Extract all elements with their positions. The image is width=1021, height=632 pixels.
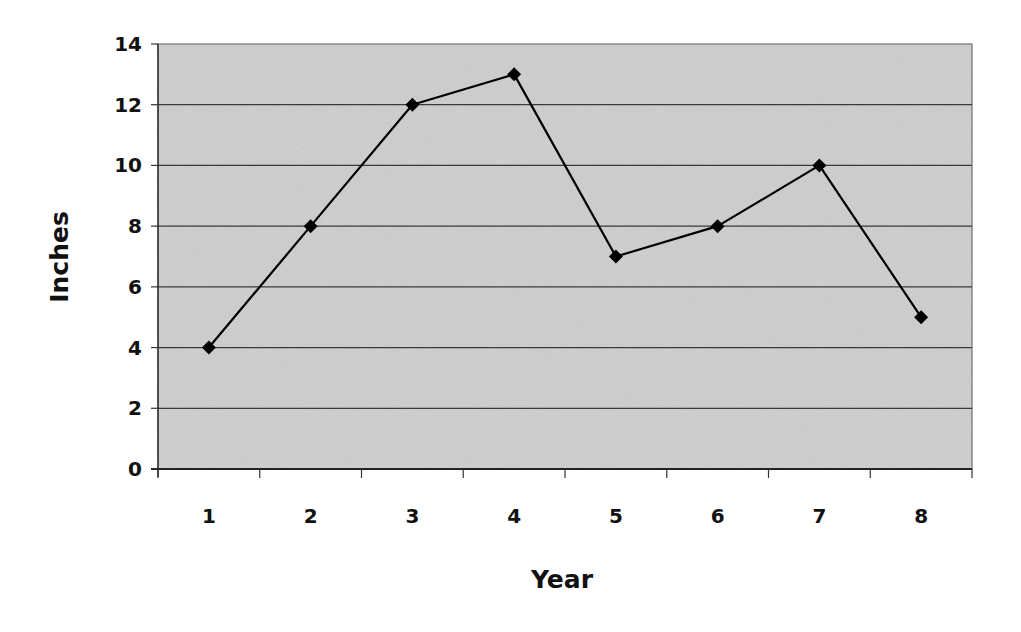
- y-axis-title: Inches: [45, 211, 74, 303]
- x-axis-tick-labels: 12345678: [158, 469, 972, 528]
- plot-area: [158, 44, 972, 469]
- y-tick-label: 0: [128, 457, 142, 481]
- x-tick-label: 4: [507, 504, 521, 528]
- y-tick-label: 6: [128, 275, 142, 299]
- y-tick-label: 2: [128, 396, 142, 420]
- x-tick-label: 6: [711, 504, 725, 528]
- y-tick-label: 10: [114, 153, 142, 177]
- x-tick-label: 7: [812, 504, 826, 528]
- x-tick-label: 5: [609, 504, 623, 528]
- y-tick-label: 14: [114, 32, 142, 56]
- x-tick-label: 3: [405, 504, 419, 528]
- x-tick-label: 8: [914, 504, 928, 528]
- y-tick-label: 4: [128, 336, 142, 360]
- x-tick-label: 2: [304, 504, 318, 528]
- y-tick-label: 8: [128, 214, 142, 238]
- y-tick-label: 12: [114, 93, 142, 117]
- y-axis-tick-labels: 02468101214: [114, 32, 158, 481]
- plot-texture: [158, 44, 972, 469]
- x-axis-title: Year: [530, 565, 594, 594]
- line-chart: 02468101214 12345678 Year Inches: [0, 0, 1021, 632]
- x-tick-label: 1: [202, 504, 216, 528]
